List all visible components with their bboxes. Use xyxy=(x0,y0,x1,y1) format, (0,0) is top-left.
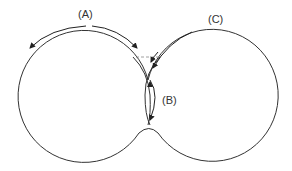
neck-upper-left-curve xyxy=(133,57,150,125)
neck-bottom-arc xyxy=(139,129,158,134)
neck-upper-right-curve xyxy=(145,57,160,125)
arrow-a-left xyxy=(30,26,86,48)
label-b: (B) xyxy=(162,94,177,106)
two-particle-sintering-diagram: (A) (C) (B) xyxy=(0,0,292,171)
label-c: (C) xyxy=(208,13,223,25)
left-particle-outline xyxy=(18,30,148,162)
arrow-a-right xyxy=(92,26,137,48)
label-a: (A) xyxy=(78,8,93,20)
arrow-b xyxy=(150,80,155,120)
arrow-c xyxy=(153,32,192,68)
